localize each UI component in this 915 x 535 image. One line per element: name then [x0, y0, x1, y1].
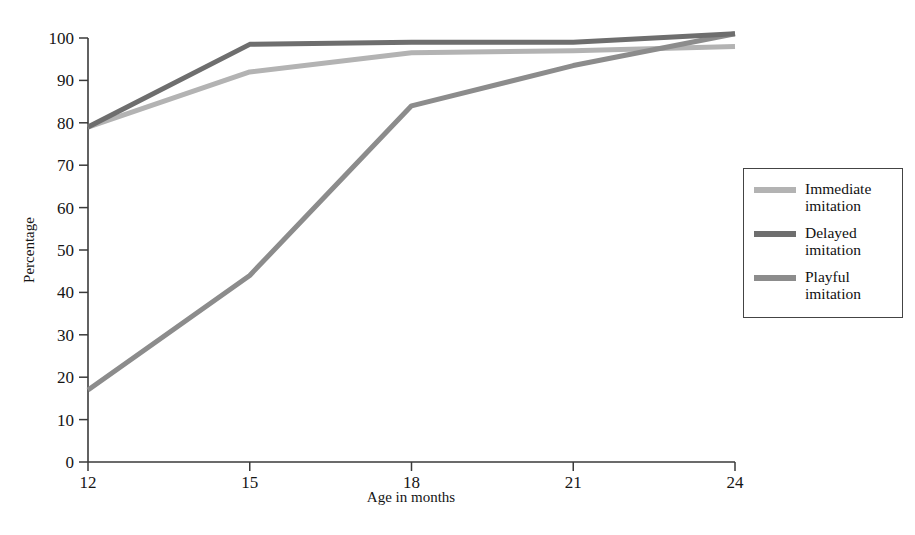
x-tick-label-15: 15	[241, 473, 258, 492]
legend-label-delayed: Delayed imitation	[805, 224, 861, 258]
legend-label-playful: Playful imitation	[805, 268, 861, 302]
chart-figure: 0102030405060708090100 1215182124 Age in…	[0, 0, 915, 535]
x-tick-label-21: 21	[565, 473, 582, 492]
axes-group	[88, 38, 735, 462]
y-tick-label-80: 80	[57, 114, 74, 133]
chart-legend: Immediate imitation Delayed imitation Pl…	[743, 168, 903, 318]
y-tick-label-60: 60	[57, 199, 74, 218]
y-tick-label-90: 90	[57, 71, 74, 90]
legend-item-playful[interactable]: Playful imitation	[754, 268, 894, 302]
y-tick-label-40: 40	[57, 283, 74, 302]
legend-swatch-immediate	[754, 187, 796, 193]
x-tick-label-24: 24	[727, 473, 745, 492]
legend-item-immediate[interactable]: Immediate imitation	[754, 180, 894, 214]
y-tick-label-50: 50	[57, 241, 74, 260]
y-tick-label-0: 0	[66, 453, 75, 472]
x-tick-label-12: 12	[80, 473, 97, 492]
y-axis-tick-labels: 0102030405060708090100	[49, 29, 75, 472]
y-tick-label-100: 100	[49, 29, 75, 48]
y-axis-ticks	[79, 38, 88, 462]
y-tick-label-10: 10	[57, 411, 74, 430]
legend-item-delayed[interactable]: Delayed imitation	[754, 224, 894, 258]
y-tick-label-30: 30	[57, 326, 74, 345]
data-series-group	[88, 34, 735, 390]
series-line-playful	[88, 34, 735, 390]
y-tick-label-70: 70	[57, 156, 74, 175]
legend-swatch-playful	[754, 275, 796, 281]
x-axis-ticks	[88, 462, 735, 471]
y-tick-label-20: 20	[57, 368, 74, 387]
series-line-immediate	[88, 46, 735, 127]
legend-swatch-delayed	[754, 231, 796, 237]
y-axis-title: Percentage	[21, 217, 37, 283]
x-axis-title: Age in months	[367, 489, 455, 505]
legend-label-immediate: Immediate imitation	[805, 180, 871, 214]
